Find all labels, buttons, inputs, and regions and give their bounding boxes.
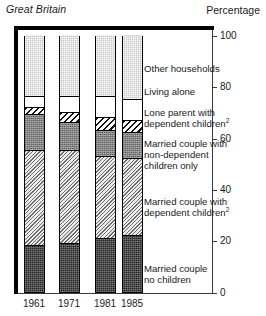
frame-top-rule xyxy=(14,26,214,30)
y-tick-100 xyxy=(212,36,217,37)
bar-segment-dep-1985 xyxy=(123,158,142,235)
page-title: Great Britain xyxy=(6,3,66,15)
y-tick-label-0: 0 xyxy=(220,288,226,298)
bar-segment-alone-1985 xyxy=(123,99,142,120)
x-tick-label-1971: 1971 xyxy=(52,298,86,309)
bar-segment-dep-1971 xyxy=(60,150,79,242)
bar-1985 xyxy=(122,36,143,293)
bar-segment-alone-1981 xyxy=(96,96,115,117)
y-tick-0 xyxy=(212,293,217,294)
y-tick-label-80: 80 xyxy=(220,82,231,92)
chart-root: Great Britain Percentage 100806040200 19… xyxy=(0,0,266,316)
bar-segment-lone-1981 xyxy=(96,117,115,130)
bar-segment-nokids-1971 xyxy=(60,243,79,292)
bar-segment-other-1985 xyxy=(123,35,142,99)
bar-segment-nokids-1981 xyxy=(96,238,115,292)
y-tick-label-20: 20 xyxy=(220,236,231,246)
legend-label-lone-parent: Lone parent with dependent children2 xyxy=(144,96,229,129)
bar-segment-other-1961 xyxy=(25,35,44,97)
bar-1971 xyxy=(59,36,80,293)
bar-segment-lone-1971 xyxy=(60,112,79,122)
y-tick-20 xyxy=(212,241,217,242)
x-tick-label-1985: 1985 xyxy=(115,298,149,309)
y-axis-title: Percentage xyxy=(206,4,260,16)
bar-segment-dep-1961 xyxy=(25,150,44,245)
legend-label-married-no-children: Married couple no children xyxy=(144,252,207,285)
bar-segment-other-1971 xyxy=(60,35,79,97)
bar-segment-alone-1971 xyxy=(60,96,79,111)
bar-segment-nondep-1985 xyxy=(123,132,142,158)
bar-segment-nondep-1971 xyxy=(60,122,79,150)
legend-label-living-alone: Living alone xyxy=(144,75,195,97)
y-tick-80 xyxy=(212,87,217,88)
bar-segment-lone-1985 xyxy=(123,120,142,133)
bar-segment-lone-1961 xyxy=(25,107,44,115)
legend-label-other: Other households xyxy=(144,52,220,74)
bar-1961 xyxy=(24,36,45,293)
bar-segment-other-1981 xyxy=(96,35,115,97)
x-axis-line xyxy=(18,293,214,294)
bar-segment-nokids-1961 xyxy=(25,245,44,291)
bar-segment-nondep-1981 xyxy=(96,130,115,156)
legend-label-married-dependent: Married couple with dependent children2 xyxy=(144,185,229,218)
bar-segment-nokids-1985 xyxy=(123,235,142,291)
y-tick-label-100: 100 xyxy=(220,31,237,41)
bar-segment-alone-1961 xyxy=(25,96,44,106)
x-tick-label-1961: 1961 xyxy=(17,298,51,309)
bar-segment-dep-1981 xyxy=(96,156,115,238)
frame-left-rule xyxy=(14,26,18,294)
bar-segment-nondep-1961 xyxy=(25,114,44,150)
bar-1981 xyxy=(95,36,116,293)
legend-label-married-non-dependent: Married couple with non-dependent childr… xyxy=(144,127,227,171)
